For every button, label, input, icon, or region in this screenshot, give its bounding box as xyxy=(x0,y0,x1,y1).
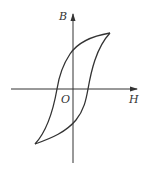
hysteresis-diagram: B H O xyxy=(0,0,148,170)
h-axis-label: H xyxy=(128,93,139,106)
origin-label: O xyxy=(61,93,70,106)
b-axis-label: B xyxy=(58,10,67,23)
